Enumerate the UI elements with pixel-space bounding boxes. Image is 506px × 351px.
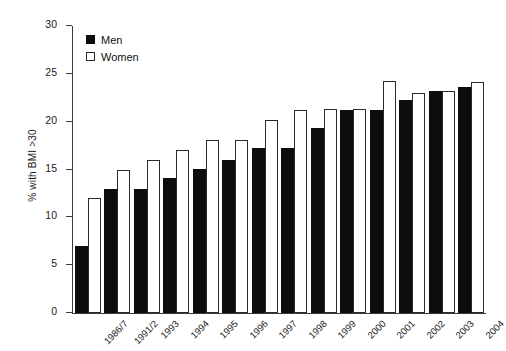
bar-group: [73, 26, 103, 313]
bar-group: [162, 26, 192, 313]
bar-group: [280, 26, 310, 313]
y-tick: 5: [66, 264, 72, 265]
bar-women: [176, 150, 189, 313]
y-tick: 10: [66, 216, 72, 217]
x-tick-label: 2002: [424, 318, 447, 341]
x-tick-label: 1995: [217, 318, 240, 341]
legend-item: Women: [86, 49, 139, 64]
x-tick-label: 1996: [247, 318, 270, 341]
bar-group: [368, 26, 398, 313]
bar-men: [458, 87, 471, 313]
bar-men: [311, 128, 324, 313]
x-tick-label: 2000: [365, 318, 388, 341]
bar-group: [250, 26, 280, 313]
bar-men: [163, 178, 176, 313]
bar-women: [235, 140, 248, 313]
bar-men: [104, 189, 117, 313]
bar-group: [398, 26, 428, 313]
bar-women: [265, 120, 278, 313]
y-tick-label: 15: [45, 162, 57, 174]
bar-men: [281, 148, 294, 313]
y-axis-label: % with BMI >30: [27, 71, 38, 261]
bar-men: [75, 246, 88, 313]
y-tick: 30: [66, 25, 72, 26]
x-tick-label: 1999: [335, 318, 358, 341]
bar-women: [206, 140, 219, 313]
bar-group: [427, 26, 457, 313]
legend-label: Men: [101, 34, 122, 46]
y-tick-label: 0: [51, 305, 57, 317]
legend-label: Women: [101, 51, 139, 63]
x-tick-label: 1997: [276, 318, 299, 341]
x-tick-label: 1998: [306, 318, 329, 341]
bar-men: [429, 91, 442, 313]
bar-group: [309, 26, 339, 313]
bar-men: [399, 100, 412, 313]
legend-swatch-women: [86, 52, 95, 61]
bars-container: [73, 26, 486, 313]
bar-women: [88, 198, 101, 313]
plot-area: 051015202530 1986/71991/2199319941995199…: [72, 26, 486, 313]
bar-women: [442, 91, 455, 313]
bar-men: [193, 169, 206, 313]
x-tick-label: 1986/7: [102, 318, 130, 346]
bar-women: [324, 109, 337, 313]
bar-men: [340, 110, 353, 313]
x-tick-label: 2004: [483, 318, 506, 341]
bar-men: [134, 189, 147, 313]
bar-men: [252, 148, 265, 313]
bar-group: [339, 26, 369, 313]
bar-group: [132, 26, 162, 313]
bar-group: [457, 26, 487, 313]
bar-women: [412, 93, 425, 313]
x-tick-label: 1991/2: [131, 318, 159, 346]
y-tick: 0: [66, 312, 72, 313]
y-tick-label: 20: [45, 114, 57, 126]
bar-women: [147, 160, 160, 313]
bar-women: [353, 109, 366, 313]
bar-group: [191, 26, 221, 313]
y-tick: 15: [66, 169, 72, 170]
legend-item: Men: [86, 32, 139, 47]
bar-women: [117, 170, 130, 314]
y-tick-label: 30: [45, 18, 57, 30]
x-tick-label: 1994: [188, 318, 211, 341]
y-tick: 20: [66, 121, 72, 122]
y-tick-label: 5: [51, 257, 57, 269]
bar-group: [103, 26, 133, 313]
bar-group: [221, 26, 251, 313]
legend-swatch-men: [86, 35, 95, 44]
bar-women: [294, 110, 307, 313]
x-tick-label: 2001: [394, 318, 417, 341]
x-tick-label: 1993: [158, 318, 181, 341]
x-axis-line: [72, 313, 486, 314]
bar-men: [222, 160, 235, 313]
x-tick-label: 2003: [453, 318, 476, 341]
y-tick-label: 10: [45, 209, 57, 221]
y-tick: 25: [66, 73, 72, 74]
bar-women: [383, 81, 396, 313]
chart-legend: MenWomen: [86, 32, 139, 66]
y-tick-label: 25: [45, 66, 57, 78]
bar-men: [370, 110, 383, 313]
bar-women: [471, 82, 484, 314]
